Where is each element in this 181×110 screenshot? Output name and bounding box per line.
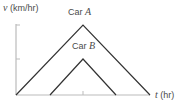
velocity-time-diagram: v (km/hr) Car A Car B t (hr) [0,0,181,110]
car-a-label: Car A [68,7,91,17]
car-b-curve [50,59,116,95]
car-b-prefix: Car [72,41,89,51]
y-axis-label: v (km/hr) [3,3,38,13]
car-a-prefix: Car [68,7,85,17]
car-a-curve [16,25,150,95]
x-axis-variable: t [155,89,158,100]
x-axis-unit: (hr) [160,90,174,100]
car-b-var: B [89,40,95,51]
y-axis-variable: v [3,2,7,13]
car-a-var: A [85,6,91,17]
y-axis-unit: (km/hr) [10,3,39,13]
car-b-label: Car B [72,41,95,51]
x-axis-label: t (hr) [155,90,174,100]
